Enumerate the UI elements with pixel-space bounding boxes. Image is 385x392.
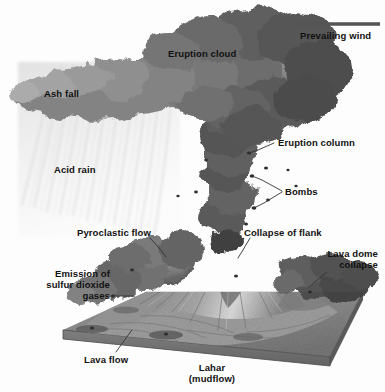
label-emission-of-sulfur-dioxide-gases: Emission of sulfur dioxide gases [20, 268, 110, 301]
label-collapse-of-flank: Collapse of flank [244, 227, 322, 238]
label-acid-rain: Acid rain [54, 164, 96, 175]
label-lava-flow: Lava flow [84, 354, 128, 365]
label-pyroclastic-flow: Pyroclastic flow [77, 227, 151, 238]
label-eruption-cloud: Eruption cloud [168, 48, 236, 59]
label-lahar-mudflow: Lahar (mudflow) [162, 362, 262, 384]
label-eruption-column: Eruption column [278, 137, 355, 148]
label-bombs: Bombs [285, 186, 318, 197]
label-lava-dome-collapse: Lava dome collapse [268, 248, 378, 270]
label-prevailing-wind: Prevailing wind [300, 30, 371, 41]
volcano-hazards-diagram: Prevailing wind Eruption cloud Ash fall … [0, 0, 385, 392]
label-ash-fall: Ash fall [44, 88, 79, 99]
